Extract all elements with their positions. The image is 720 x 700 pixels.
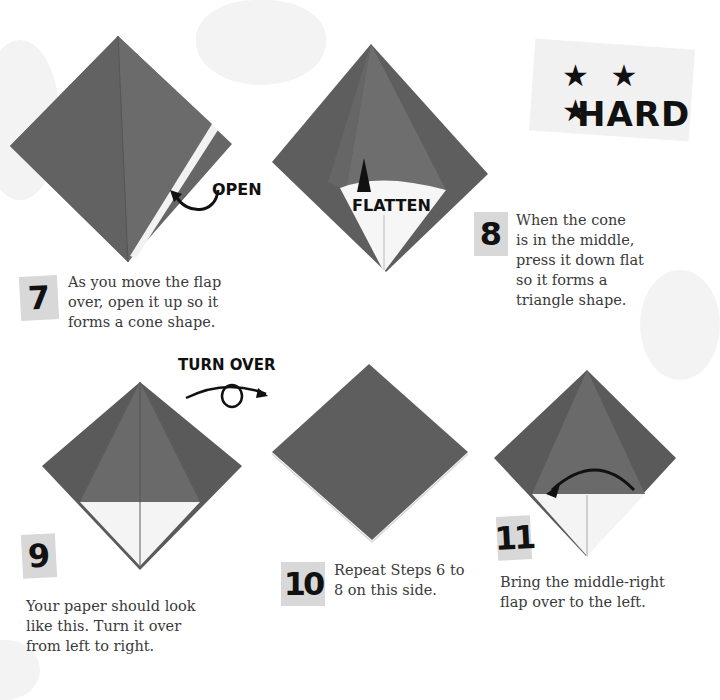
step-10-text: Repeat Steps 6 to 8 on this side. (334, 560, 465, 600)
step-9-text: Your paper should look like this. Turn i… (26, 596, 196, 656)
step-number-11: 11 (496, 515, 532, 561)
step-number-10: 10 (281, 562, 325, 606)
step-number-8: 8 (474, 212, 508, 256)
step-8-text: When the cone is in the middle, press it… (516, 210, 644, 310)
left-arrow-icon (544, 482, 564, 502)
step-11-text: Bring the middle-right flap over to the … (500, 572, 665, 612)
step-7-text: As you move the flap over, open it up so… (68, 272, 221, 332)
step-number-9: 9 (21, 533, 57, 579)
step-number-7: 7 (19, 275, 59, 321)
